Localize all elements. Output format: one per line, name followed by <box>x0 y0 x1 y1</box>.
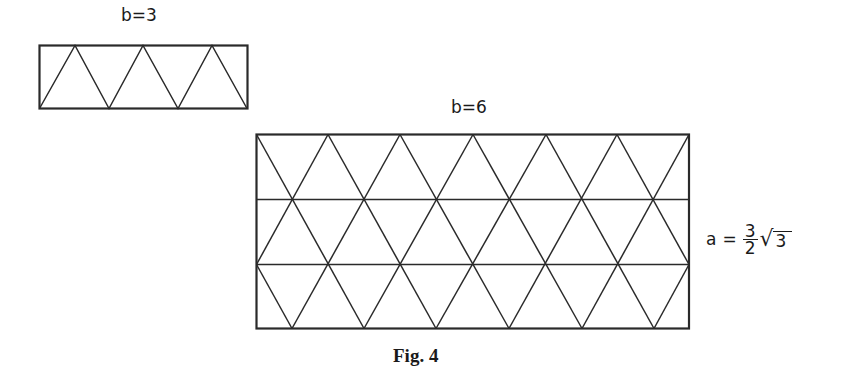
formula-equals: = <box>722 229 736 249</box>
diagram-canvas <box>0 0 851 376</box>
radical-sign-icon: √ <box>760 228 774 250</box>
fraction-numerator: 3 <box>743 223 758 240</box>
formula-sqrt: √ 3 <box>760 228 793 250</box>
radicand: 3 <box>773 231 793 250</box>
side-length-formula: a = 3 2 √ 3 <box>706 221 792 257</box>
figure-caption: Fig. 4 <box>393 345 438 367</box>
label-b6: b=6 <box>451 97 487 117</box>
fraction-denominator: 2 <box>743 240 758 256</box>
formula-lhs: a <box>706 229 716 249</box>
triangle-tiling-figure: b=3 <box>0 0 851 376</box>
formula-fraction: 3 2 <box>743 223 758 256</box>
large-rectangle-tiling <box>257 135 690 329</box>
small-rectangle-tiling <box>40 46 248 109</box>
